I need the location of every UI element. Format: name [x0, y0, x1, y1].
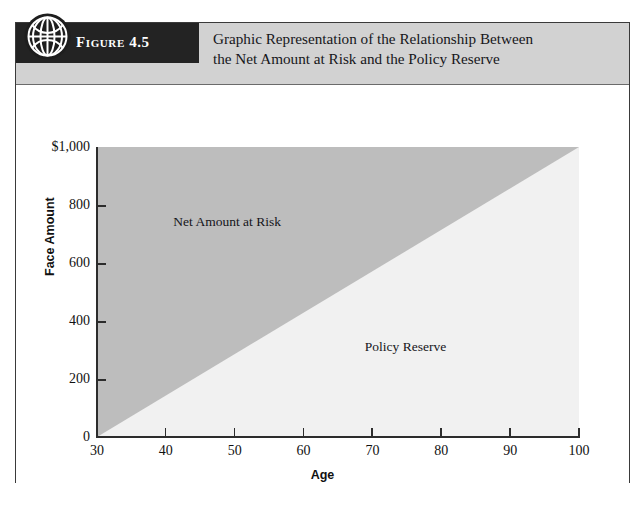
x-tick [303, 428, 305, 437]
y-tick [97, 205, 106, 207]
y-tick-label: 800 [69, 197, 90, 213]
x-tick [509, 428, 511, 437]
y-tick-label: 600 [69, 255, 90, 271]
x-tick-label: 100 [569, 443, 590, 459]
y-tick [97, 379, 106, 381]
y-tick [97, 321, 106, 323]
x-axis-title: Age [16, 468, 629, 482]
x-axis-line [96, 436, 580, 438]
x-tick [371, 428, 373, 437]
y-tick [97, 263, 106, 265]
y-tick-label: 0 [83, 429, 90, 445]
x-tick-label: 40 [159, 443, 173, 459]
x-tick-label: 90 [503, 443, 517, 459]
globe-icon [23, 12, 72, 61]
x-tick [440, 428, 442, 437]
figure-number-label: Figure 4.5 [76, 34, 150, 51]
x-tick-label: 50 [228, 443, 242, 459]
chart-area: Face Amount 0200400600800$1,000 30405060… [16, 86, 629, 483]
y-tick-label: 400 [69, 313, 90, 329]
y-tick-label: 200 [69, 371, 90, 387]
x-tick-label: 30 [90, 443, 104, 459]
region-label-net-amount-at-risk: Net Amount at Risk [173, 214, 281, 230]
figure-frame: Figure 4.5 Graphic Representation of the… [15, 22, 630, 483]
x-tick-label: 70 [365, 443, 379, 459]
figure-title-line-2: the Net Amount at Risk and the Policy Re… [213, 49, 621, 69]
x-tick-label: 60 [297, 443, 311, 459]
plot-area: 0200400600800$1,000 30405060708090100 Ne… [97, 147, 579, 437]
x-tick [578, 428, 580, 437]
figure-title: Graphic Representation of the Relationsh… [213, 29, 621, 68]
y-axis-title: Face Amount [43, 197, 57, 276]
x-tick [234, 428, 236, 437]
x-tick-label: 80 [434, 443, 448, 459]
y-axis-line [96, 147, 98, 437]
figure-title-line-1: Graphic Representation of the Relationsh… [213, 29, 621, 49]
y-tick-label: $1,000 [52, 139, 91, 155]
figure-header: Figure 4.5 Graphic Representation of the… [16, 23, 629, 85]
x-tick [165, 428, 167, 437]
region-label-policy-reserve: Policy Reserve [365, 339, 446, 355]
